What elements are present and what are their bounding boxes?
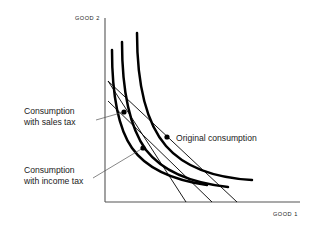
annotation-original-consumption-line1: Original consumption <box>176 133 257 143</box>
annotation-sales-tax-line1: Consumption <box>24 106 75 116</box>
annotation-original-consumption: Original consumption <box>176 133 257 143</box>
annotation-income-tax-line1: Consumption <box>24 165 75 175</box>
point-marker-income-tax <box>140 145 145 150</box>
annotation-sales-tax-line2: with sales tax <box>23 117 76 127</box>
axes-group <box>105 18 300 202</box>
annotation-income-tax: Consumption with income tax <box>23 165 84 186</box>
y-axis-label: GOOD 2 <box>75 15 100 21</box>
point-marker-sales-tax <box>121 109 126 114</box>
figure-canvas: GOOD 2 GOOD 1 Consumption with sales tax… <box>0 0 333 229</box>
x-axis-label: GOOD 1 <box>273 211 298 217</box>
budget-line-income-tax <box>108 101 212 202</box>
budget-line-sales-tax <box>108 81 186 202</box>
leader-line-income-tax <box>93 148 143 178</box>
indifference-curves-group <box>112 33 252 187</box>
economics-indifference-curve-figure: GOOD 2 GOOD 1 Consumption with sales tax… <box>0 0 333 229</box>
annotation-income-tax-line2: with income tax <box>23 176 84 186</box>
leader-lines-group <box>93 112 143 178</box>
point-marker-original-consumption <box>164 134 169 139</box>
annotation-sales-tax: Consumption with sales tax <box>23 106 76 127</box>
